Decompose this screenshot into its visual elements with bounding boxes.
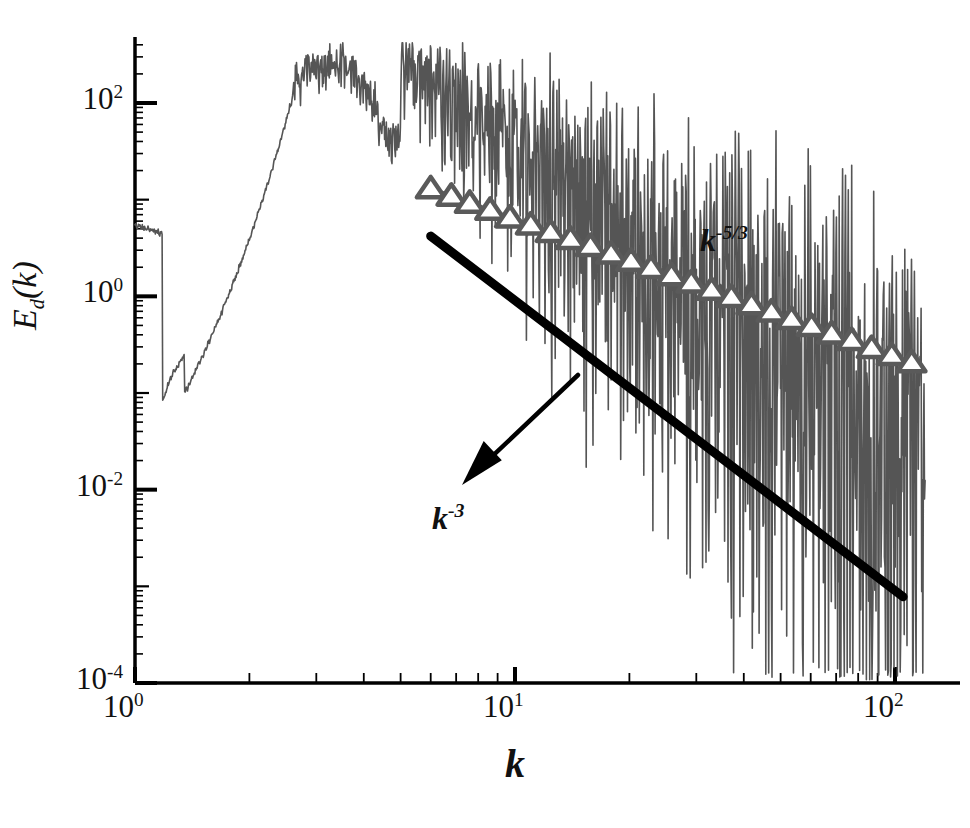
ytick-label-0: 102 xyxy=(82,81,123,117)
annotation-arrow-group xyxy=(462,375,578,485)
xtick-label-0: 100 xyxy=(103,689,144,725)
y-axis-label: Ed(k) xyxy=(6,150,44,330)
arrow-head xyxy=(462,441,502,485)
k-minus-five-thirds-label: k-5/3 xyxy=(700,222,748,259)
xtick-label-1: 101 xyxy=(483,689,524,725)
xtick-label-2: 102 xyxy=(863,689,904,725)
ytick-label-2: 10-2 xyxy=(76,468,123,504)
arrow-shaft xyxy=(488,375,578,460)
spectrum-curve-group xyxy=(135,43,925,680)
ytick-label-1: 100 xyxy=(82,274,123,310)
k53-triangle-marker xyxy=(417,177,445,197)
spectrum-curve xyxy=(135,43,925,680)
figure-root: 102 100 10-2 10-4 100 101 102 Ed(k) k k-… xyxy=(0,0,970,828)
k-minus-three-label: k-3 xyxy=(432,500,465,537)
x-axis-label: k xyxy=(505,740,525,787)
